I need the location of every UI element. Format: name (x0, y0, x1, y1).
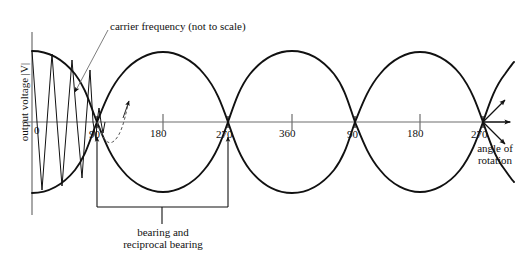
x-axis-label: angle of rotation (466, 142, 524, 167)
waveform-plot (0, 0, 527, 262)
diagram-canvas: output voltage |V| 0 90 180 270 360 90 1… (0, 0, 527, 262)
x-tick-label-270-a: 270 (216, 128, 233, 140)
x-tick-label-360: 360 (279, 127, 296, 139)
x-tick-label-270-b: 270 (471, 128, 488, 140)
carrier-frequency-label: carrier frequency (not to scale) (110, 20, 246, 32)
x-tick-label-90-a: 90 (89, 128, 100, 140)
bearing-label-line1: bearing and (108, 226, 218, 238)
bearing-label-line2: reciprocal bearing (108, 238, 218, 250)
carrier-frequency-leader (75, 30, 108, 92)
y-axis-label: output voltage |V| (18, 42, 30, 162)
x-tick-label-180-b: 180 (407, 127, 424, 139)
carrier-frequency-waveform (32, 51, 105, 190)
x-axis-label-line2: rotation (466, 154, 524, 166)
bearing-bracket (97, 137, 228, 224)
x-tick-label-0: 0 (34, 124, 40, 136)
x-tick-label-90-b: 90 (347, 128, 358, 140)
x-tick-label-180-a: 180 (150, 127, 167, 139)
x-axis-label-line1: angle of (466, 142, 524, 154)
bearing-label: bearing and reciprocal bearing (108, 226, 218, 251)
null-detail-leader (123, 101, 129, 118)
